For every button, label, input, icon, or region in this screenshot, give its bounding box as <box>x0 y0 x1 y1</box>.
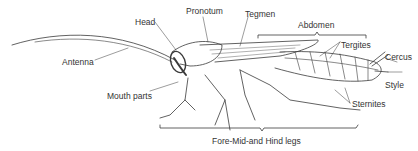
sternites-leader <box>335 88 350 103</box>
tergites-leader <box>320 42 340 58</box>
insect-illustration <box>0 0 418 151</box>
pronotum-leader <box>203 17 208 42</box>
head-leader <box>155 22 176 50</box>
label-pronotum: Pronotum <box>186 7 223 16</box>
antenna-leader <box>95 48 128 60</box>
style-drawing <box>375 71 388 72</box>
label-cercus: Cercus <box>385 53 412 62</box>
head-drawing <box>168 49 189 74</box>
label-style: Style <box>385 81 404 90</box>
tegmen-leader <box>240 17 248 46</box>
fore-leg-drawing <box>160 78 195 118</box>
label-mouth-parts: Mouth parts <box>107 92 152 101</box>
label-abdomen: Abdomen <box>298 21 334 30</box>
label-head: Head <box>135 18 155 27</box>
label-legs: Fore-Mid-and Hind legs <box>212 137 301 146</box>
hind-leg-drawing <box>240 70 360 110</box>
mid-leg-drawing <box>205 75 230 130</box>
abdomen-bracket <box>258 32 366 38</box>
label-tergites: Tergites <box>341 41 371 50</box>
label-tegmen: Tegmen <box>245 10 275 19</box>
cockroach-diagram: Head Pronotum Tegmen Abdomen Tergites Ce… <box>0 0 418 151</box>
label-sternites: Sternites <box>352 100 386 109</box>
legs-bracket <box>160 125 358 131</box>
label-antenna: Antenna <box>62 58 94 67</box>
mouth-parts-leader <box>150 82 178 91</box>
